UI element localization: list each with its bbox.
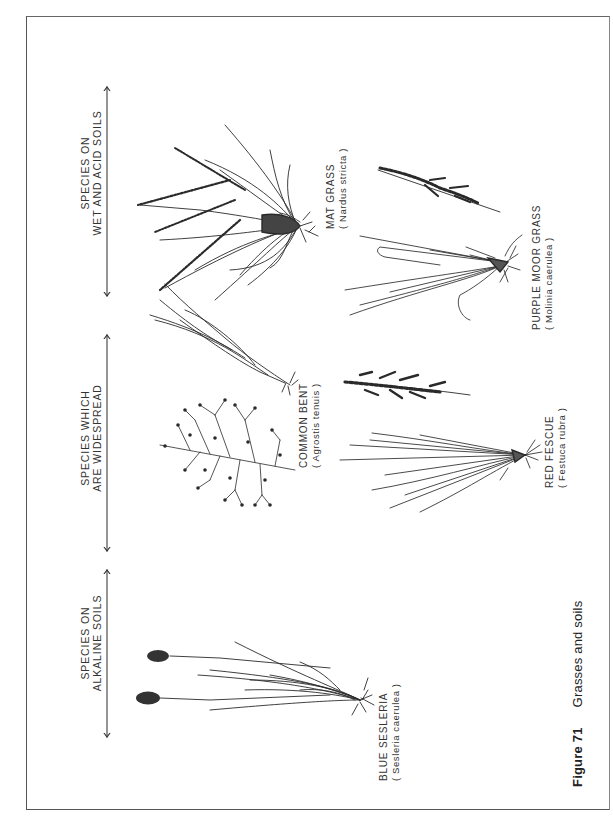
- species-label-purple-moor-grass: PURPLE MOOR GRASS ( Molinia caerulea ): [531, 205, 554, 330]
- species-latin-name: ( Sesleria caerulea ): [390, 683, 402, 781]
- group-header-line1: SPECIES ON: [79, 553, 91, 733]
- group-header-line1: SPECIES WHICH: [79, 348, 91, 528]
- species-common-name: PURPLE MOOR GRASS: [531, 205, 543, 330]
- group-header-line1: SPECIES ON: [79, 83, 91, 263]
- species-label-red-fescue: RED FESCUE ( Festuca rubra ): [544, 408, 567, 488]
- purple-moor-grass-drawing: [345, 168, 522, 320]
- common-bent-panicle-drawing: [160, 398, 295, 507]
- red-fescue-tuft-drawing: [340, 433, 542, 512]
- species-latin-name: ( Agrostis tenuis ): [310, 383, 322, 468]
- species-common-name: RED FESCUE: [544, 408, 556, 488]
- species-latin-name: ( Molinia caerulea ): [543, 205, 555, 330]
- group-header-line2: ALKALINE SOILS: [91, 553, 103, 733]
- figure-number: Figure 71: [570, 727, 585, 787]
- species-common-name: BLUE SESLERIA: [378, 683, 390, 781]
- species-label-mat-grass: MAT GRASS ( Nardus stricta ): [325, 148, 348, 229]
- species-latin-name: ( Nardus stricta ): [337, 148, 349, 229]
- species-latin-name: ( Festuca rubra ): [556, 408, 568, 488]
- group-header-widespread: SPECIES WHICH ARE WIDESPREAD: [79, 348, 103, 528]
- species-label-blue-sesleria: BLUE SESLERIA ( Sesleria caerulea ): [378, 683, 401, 781]
- group-header-wet-acid: SPECIES ON WET AND ACID SOILS: [79, 83, 103, 263]
- group-header-line2: WET AND ACID SOILS: [91, 83, 103, 263]
- species-common-name: COMMON BENT: [298, 383, 310, 468]
- figure-caption: Figure 71Grasses and soils: [570, 601, 585, 787]
- mat-grass-drawing: [138, 125, 318, 300]
- figure-title: Grasses and soils: [570, 601, 585, 708]
- group-header-alkaline: SPECIES ON ALKALINE SOILS: [79, 553, 103, 733]
- species-common-name: MAT GRASS: [325, 148, 337, 229]
- common-bent-shoot-drawing: [150, 284, 298, 395]
- blue-sesleria-drawing: [136, 642, 374, 715]
- group-header-line2: ARE WIDESPREAD: [91, 348, 103, 528]
- species-label-common-bent: COMMON BENT ( Agrostis tenuis ): [298, 383, 321, 468]
- red-fescue-panicle-drawing: [345, 372, 470, 398]
